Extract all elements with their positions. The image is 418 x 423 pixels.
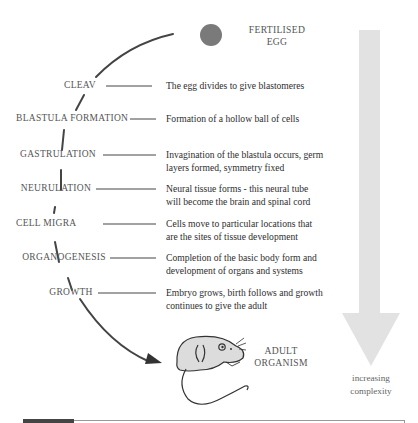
fertilised-egg-label-line1: FERTILISED <box>247 24 307 36</box>
desc-line: Completion of the basic body form and <box>166 251 317 264</box>
arc-arrowhead-icon <box>145 353 162 364</box>
stage-label-growth: GROWTH <box>46 287 96 297</box>
adult-organism-label-line2: ORGANISM <box>246 357 316 369</box>
increasing-complexity-arrow <box>342 30 400 366</box>
desc-line: continues to give the adult <box>166 299 323 312</box>
desc-line: Cells move to particular locations that <box>166 217 312 230</box>
stage-label-neurulation: NEURULATION <box>19 183 93 193</box>
adult-organism-label: ADULT ORGANISM <box>246 345 316 369</box>
stage-label-gastrulation: GASTRULATION <box>18 149 98 159</box>
stage-label-cleavage: CLEAV <box>40 80 120 90</box>
desc-line: Embryo grows, birth follows and growth <box>166 286 323 299</box>
stage-desc-neurulation: Neural tissue forms - this neural tube w… <box>166 182 310 208</box>
desc-line: Formation of a hollow ball of cells <box>166 112 299 125</box>
stage-desc-organogenesis: Completion of the basic body form and de… <box>166 251 317 277</box>
desc-line: The egg divides to give blastomeres <box>166 79 304 92</box>
stage-desc-blastula-formation: Formation of a hollow ball of cells <box>166 112 299 125</box>
increasing-complexity-label: increasing complexity <box>336 372 406 398</box>
complexity-label-line1: increasing <box>336 372 406 385</box>
fertilised-egg-label: FERTILISED EGG <box>247 24 307 48</box>
desc-line: development of organs and systems <box>166 264 317 277</box>
mouse-illustration-icon <box>177 336 248 404</box>
stage-label-organogenesis: ORGANOGENESIS <box>22 252 106 262</box>
stage-label-blastula-formation: BLASTULA FORMATION <box>16 113 126 123</box>
stage-desc-gastrulation: Invagination of the blastula occurs, ger… <box>166 148 323 174</box>
stage-label-cell-migration: CELL MIGRA <box>16 218 76 228</box>
diagram-graphics <box>0 0 418 423</box>
desc-line: Invagination of the blastula occurs, ger… <box>166 148 323 161</box>
bottom-frame <box>23 419 405 423</box>
complexity-label-line2: complexity <box>336 385 406 398</box>
desc-line: Neural tissue forms - this neural tube <box>166 182 310 195</box>
desc-line: will become the brain and spinal cord <box>166 195 310 208</box>
stage-desc-cleavage: The egg divides to give blastomeres <box>166 79 304 92</box>
adult-organism-label-line1: ADULT <box>246 345 316 357</box>
fertilised-egg-label-line2: EGG <box>247 36 307 48</box>
fertilised-egg-icon <box>200 24 222 46</box>
stage-desc-growth: Embryo grows, birth follows and growth c… <box>166 286 323 312</box>
desc-line: are the sites of tissue development <box>166 230 312 243</box>
stage-desc-cell-migration: Cells move to particular locations that … <box>166 217 312 243</box>
desc-line: layers formed, symmetry fixed <box>166 161 323 174</box>
